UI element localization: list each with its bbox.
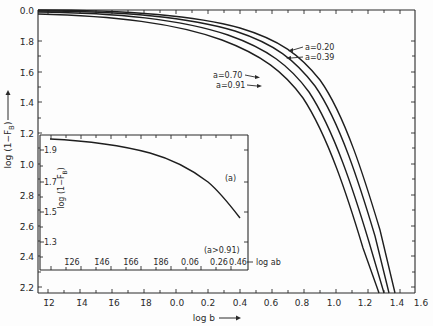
arrow-right-icon [257,84,262,88]
inset-y-tick-label: 1.5 [44,208,57,217]
x-tick-label: 1̄2 [43,298,54,308]
legend-item-a-0-91: a=0.91 [216,81,262,90]
x-tick-label: 1.0 [327,298,342,308]
y-tick-label: 1̄.4 [20,98,35,108]
legend-label: a=0.91 [216,81,245,90]
inset-x-axis-label: log ab [256,258,281,267]
y-tick-label: 2̄.2 [20,283,34,293]
inset-last-tick-with-axis-label: 0.46 log ab [229,258,281,267]
inset-y-tick-label: 1.3 [44,238,57,247]
y-tick-label: 1̄.8 [20,37,35,47]
legend-label: a=0.20 [305,43,334,52]
chart-figure: 1̄2 1̄4 1̄6 1̄8 0.0 0.2 0.4 0.6 0.8 1.0 … [0,0,433,326]
y-tick-label: 1̄.2 [20,129,34,139]
chart-canvas: 1̄2 1̄4 1̄6 1̄8 0.0 0.2 0.4 0.6 0.8 1.0 … [0,0,433,326]
y-tick-label: 2̄.4 [20,252,35,262]
x-tick-label: 1̄4 [76,298,88,308]
y-tick-label: 1̄.0 [20,160,35,170]
x-tick-label: 0.2 [201,298,215,308]
y-tick-label: 1̄.6 [20,68,35,78]
arrow-right-icon [255,75,260,79]
main-y-tick-labels: 0.0 1̄.8 1̄.6 1̄.4 1̄.2 1̄.0 2̄.8 2̄.6 2… [20,6,35,293]
y-tick-label: 0.0 [20,6,35,16]
main-y-axis-label: log (1−FB) [3,122,16,169]
x-tick-label: 0.4 [233,298,248,308]
y-tick-label: 2̄.8 [20,191,35,201]
x-tick-label: 0.8 [295,298,310,308]
x-tick-label: 1.2 [358,298,372,308]
x-tick-label: 1̄8 [140,298,152,308]
main-x-axis-label: log b [193,313,241,323]
inset-y-tick-label: 1.9 [44,146,57,155]
y-tick-label: 2̄.6 [20,222,35,232]
legend-item-a-0-70: a=0.70 [213,71,260,80]
x-tick-label: 1.6 [414,298,429,308]
x-tick-label: 0.0 [170,298,185,308]
y-axis-label-text: log (1−FB) [3,122,16,169]
inset-condition-label: (a>0.91) [204,246,240,255]
inset-panel: 1.9 1.7 1.5 1.3 1̄26 1̄46 1̄66 1̄86 0.06… [40,135,281,270]
arrow-up-icon [6,90,11,120]
inset-panel-label: (a) [225,174,236,183]
inset-x-tick-label: 1̄86 [153,258,168,267]
x-tick-label: 0.6 [264,298,279,308]
legend-label: a=0.39 [305,53,334,62]
inset-y-tick-label: 1.7 [44,178,57,187]
inset-x-tick-label: 0.06 [181,258,199,267]
inset-x-tick-label: 0.46 [229,258,247,267]
legend: a=0.20 a=0.39 a=0.70 a=0.91 [213,43,334,90]
x-axis-label-text: log b [193,313,216,323]
legend-label: a=0.70 [213,71,242,80]
arrow-right-icon [219,316,241,321]
legend-item-a-0-20: a=0.20 [288,43,334,52]
x-tick-label: 1̄6 [108,298,120,308]
main-x-tick-labels: 1̄2 1̄4 1̄6 1̄8 0.0 0.2 0.4 0.6 0.8 1.0 … [43,298,428,308]
inset-x-tick-label: 1̄26 [64,258,79,267]
x-tick-label: 1.4 [390,298,405,308]
inset-x-tick-label: 1̄66 [123,258,138,267]
inset-x-tick-label: 1̄46 [94,258,109,267]
legend-item-a-0-39: a=0.39 [286,53,334,62]
inset-x-tick-label: 0.26 [210,258,228,267]
